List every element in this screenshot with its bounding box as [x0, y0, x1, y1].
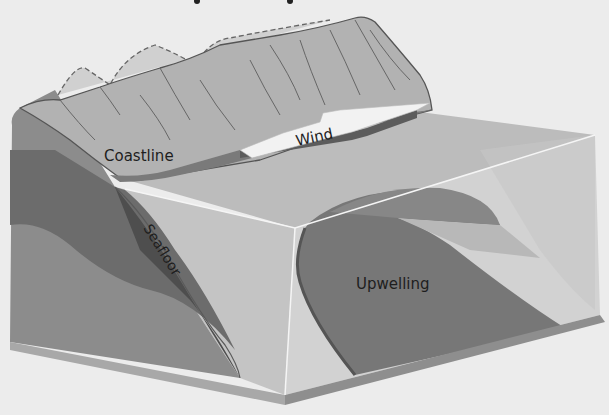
- coastal-upwelling-diagram: Wind Coastline Seafloor Upwelling: [0, 0, 609, 415]
- label-upwelling: Upwelling: [356, 275, 430, 293]
- label-coastline: Coastline: [104, 147, 174, 165]
